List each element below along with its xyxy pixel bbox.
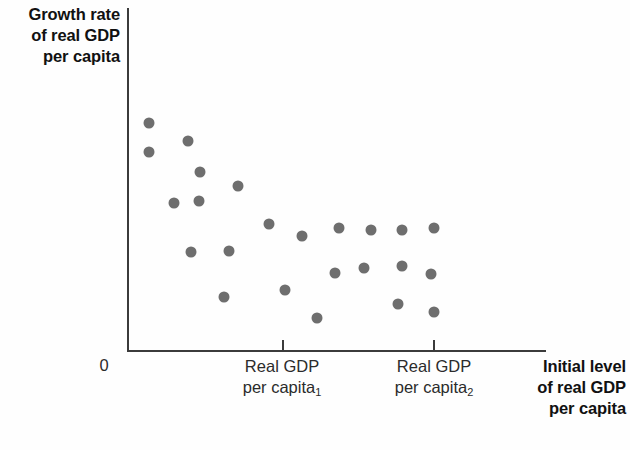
x-tick-label-1-subscript: 1 [315, 386, 321, 398]
x-axis-title-line-1: Initial level [500, 356, 626, 377]
x-axis-tick-1 [282, 340, 284, 351]
x-tick-label-1-line-2: per capita1 [222, 377, 342, 400]
scatter-point [426, 269, 437, 280]
scatter-point [195, 167, 206, 178]
chart-figure: Growth rate of real GDP per capita 0 Rea… [0, 0, 630, 450]
scatter-point [233, 181, 244, 192]
x-axis-title: Initial level of real GDP per capita [500, 356, 626, 419]
x-axis-title-line-2: of real GDP [500, 377, 626, 398]
scatter-point [144, 147, 155, 158]
x-tick-label-1-text: per capita [243, 378, 315, 396]
scatter-point [429, 307, 440, 318]
scatter-point [183, 136, 194, 147]
x-tick-label-1: Real GDP per capita1 [222, 356, 342, 400]
x-axis-tick-2 [433, 340, 435, 351]
y-axis-title-line-1: Growth rate [0, 4, 120, 25]
x-tick-label-2: Real GDP per capita2 [374, 356, 494, 400]
y-axis-title: Growth rate of real GDP per capita [0, 4, 120, 67]
x-axis-title-line-3: per capita [500, 398, 626, 419]
scatter-point [397, 225, 408, 236]
scatter-point [366, 225, 377, 236]
scatter-point [280, 285, 291, 296]
x-tick-label-2-line-1: Real GDP [374, 356, 494, 377]
scatter-point [169, 198, 180, 209]
scatter-point [429, 223, 440, 234]
x-tick-label-2-subscript: 2 [467, 386, 473, 398]
x-axis-line [127, 350, 546, 352]
scatter-point [264, 219, 275, 230]
x-tick-label-2-line-2: per capita2 [374, 377, 494, 400]
scatter-point [224, 246, 235, 257]
x-tick-label-2-text: per capita [395, 378, 467, 396]
scatter-point [312, 313, 323, 324]
scatter-point [297, 231, 308, 242]
scatter-point [397, 261, 408, 272]
scatter-point [194, 196, 205, 207]
scatter-point [334, 223, 345, 234]
x-tick-label-1-line-1: Real GDP [222, 356, 342, 377]
scatter-point [144, 118, 155, 129]
scatter-point [359, 263, 370, 274]
scatter-point [393, 299, 404, 310]
y-axis-title-line-2: of real GDP [0, 25, 120, 46]
origin-label: 0 [90, 356, 118, 375]
scatter-point [330, 268, 341, 279]
y-axis-title-line-3: per capita [0, 46, 120, 67]
scatter-point [186, 247, 197, 258]
y-axis-line [127, 8, 129, 352]
scatter-point [219, 292, 230, 303]
